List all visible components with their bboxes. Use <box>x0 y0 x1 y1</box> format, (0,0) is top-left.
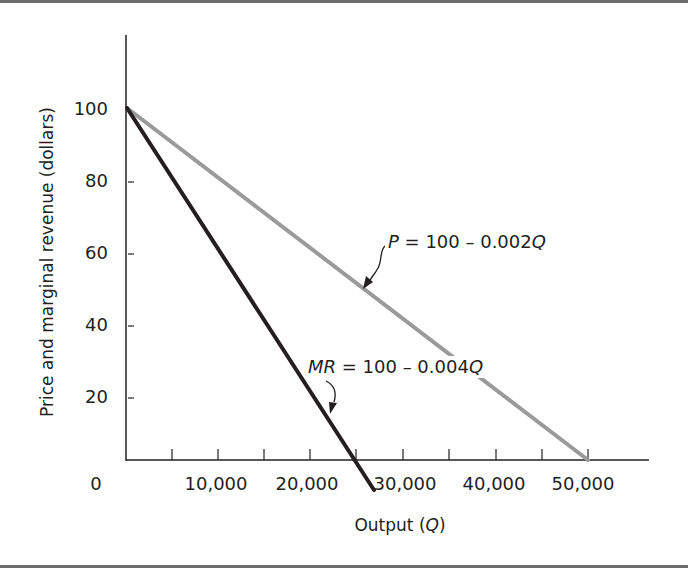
x-tick-label-40000: 40,000 <box>449 474 539 494</box>
mr-variable: MR <box>308 356 336 377</box>
x-tick-label-10000: 10,000 <box>171 474 261 494</box>
x-tick-label-30000: 30,000 <box>360 474 450 494</box>
x-ticks <box>172 449 588 460</box>
y-tick-label-100: 100 <box>58 99 108 119</box>
price-equation-q: Q <box>532 231 546 252</box>
mr-annotation-arrow <box>326 381 337 414</box>
y-axis-title: Price and marginal revenue (dollars) <box>37 107 57 417</box>
price-equation-label: P = 100 – 0.002Q <box>385 231 549 253</box>
price-variable: P <box>388 231 399 252</box>
mr-equation-q: Q <box>469 356 483 377</box>
x-axis-title-text: Output ( <box>354 515 425 535</box>
y-ticks <box>128 182 134 398</box>
marginal-revenue-line <box>127 108 374 490</box>
x-tick-label-0: 0 <box>51 474 141 494</box>
y-tick-label-60: 60 <box>58 243 108 263</box>
price-line <box>127 108 588 460</box>
price-equation-text: = 100 – 0.002 <box>399 231 532 252</box>
y-tick-label-40: 40 <box>58 315 108 335</box>
mr-equation-text: = 100 – 0.004 <box>336 356 469 377</box>
x-axis-title-suffix: ) <box>439 515 446 535</box>
mr-equation-label: MR = 100 – 0.004Q <box>305 356 486 378</box>
x-tick-label-20000: 20,000 <box>262 474 352 494</box>
x-axis-title: Output (Q) <box>330 515 470 535</box>
x-tick-label-50000: 50,000 <box>538 474 628 494</box>
x-axis-title-variable: Q <box>426 515 439 535</box>
y-tick-label-80: 80 <box>58 171 108 191</box>
y-tick-label-20: 20 <box>58 387 108 407</box>
